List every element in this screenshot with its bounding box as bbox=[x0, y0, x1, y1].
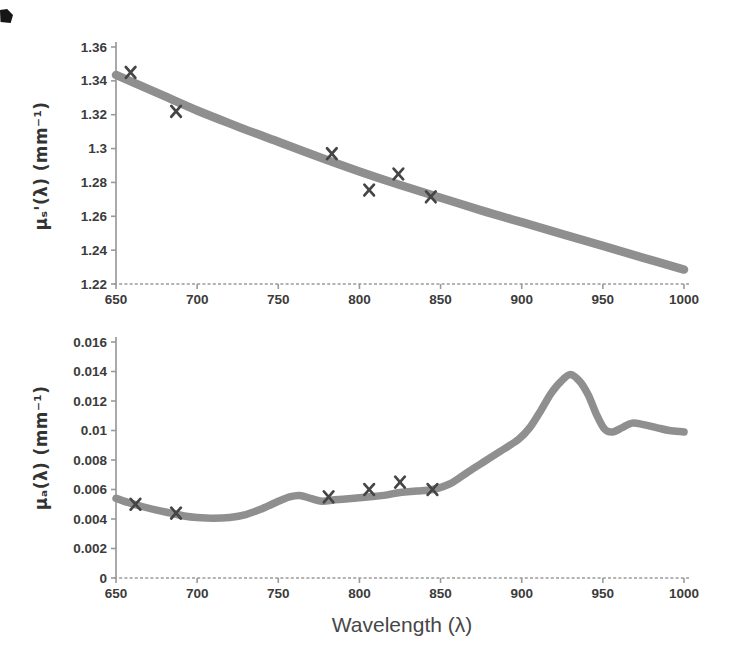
x-tick-label: 850 bbox=[429, 586, 452, 601]
data-point-marker bbox=[394, 169, 404, 180]
x-tick-label: 950 bbox=[592, 586, 615, 601]
y-tick-label: 0.01 bbox=[81, 423, 108, 438]
y-tick-label: 0.016 bbox=[73, 335, 107, 350]
data-point-marker bbox=[126, 67, 136, 78]
y-tick-label: 0.006 bbox=[73, 482, 107, 497]
scattering-y-axis-title: μₛ'(λ) (mm⁻¹) bbox=[31, 102, 51, 231]
y-tick-label: 0.008 bbox=[73, 453, 107, 468]
x-tick-label: 900 bbox=[510, 586, 533, 601]
absorption-curve bbox=[116, 374, 684, 518]
y-tick-label: 1.34 bbox=[81, 73, 108, 88]
y-tick-label: 1.26 bbox=[81, 209, 108, 224]
x-tick-label: 950 bbox=[592, 292, 615, 307]
y-tick-label: 0.004 bbox=[73, 512, 107, 527]
scattering-chart: 65070075080085090095010001.361.341.321.3… bbox=[81, 40, 699, 308]
absorption-chart: 65070075080085090095010000.0160.0140.012… bbox=[73, 335, 699, 602]
y-tick-label: 1.32 bbox=[81, 107, 107, 122]
y-tick-label: 0 bbox=[99, 571, 107, 586]
x-tick-label: 900 bbox=[510, 292, 533, 307]
x-tick-label: 800 bbox=[348, 292, 371, 307]
x-tick-label: 1000 bbox=[669, 586, 699, 601]
x-tick-label: 650 bbox=[105, 586, 128, 601]
x-tick-label: 700 bbox=[186, 586, 209, 601]
x-tick-label: 800 bbox=[348, 586, 371, 601]
y-tick-label: 1.3 bbox=[88, 141, 107, 156]
y-tick-label: 0.012 bbox=[73, 394, 107, 409]
data-point-marker bbox=[364, 185, 374, 196]
y-tick-label: 1.28 bbox=[81, 175, 108, 190]
charts-canvas: 65070075080085090095010001.361.341.321.3… bbox=[0, 0, 736, 666]
x-tick-label: 750 bbox=[267, 586, 290, 601]
y-tick-label: 0.002 bbox=[73, 541, 107, 556]
x-tick-label: 650 bbox=[105, 292, 128, 307]
x-axis-title: Wavelength (λ) bbox=[116, 613, 688, 637]
y-tick-label: 1.36 bbox=[81, 40, 108, 55]
data-point-marker bbox=[395, 477, 405, 488]
y-tick-label: 0.014 bbox=[73, 364, 107, 379]
y-tick-label: 1.22 bbox=[81, 277, 107, 292]
absorption-y-axis-title: μₐ(λ) (mm⁻¹) bbox=[31, 386, 51, 511]
data-point-marker bbox=[171, 106, 181, 117]
x-tick-label: 1000 bbox=[669, 292, 699, 307]
x-tick-label: 700 bbox=[186, 292, 209, 307]
x-tick-label: 750 bbox=[267, 292, 290, 307]
x-tick-label: 850 bbox=[429, 292, 452, 307]
y-tick-label: 1.24 bbox=[81, 243, 108, 258]
optical-properties-figure: 65070075080085090095010001.361.341.321.3… bbox=[0, 0, 736, 666]
